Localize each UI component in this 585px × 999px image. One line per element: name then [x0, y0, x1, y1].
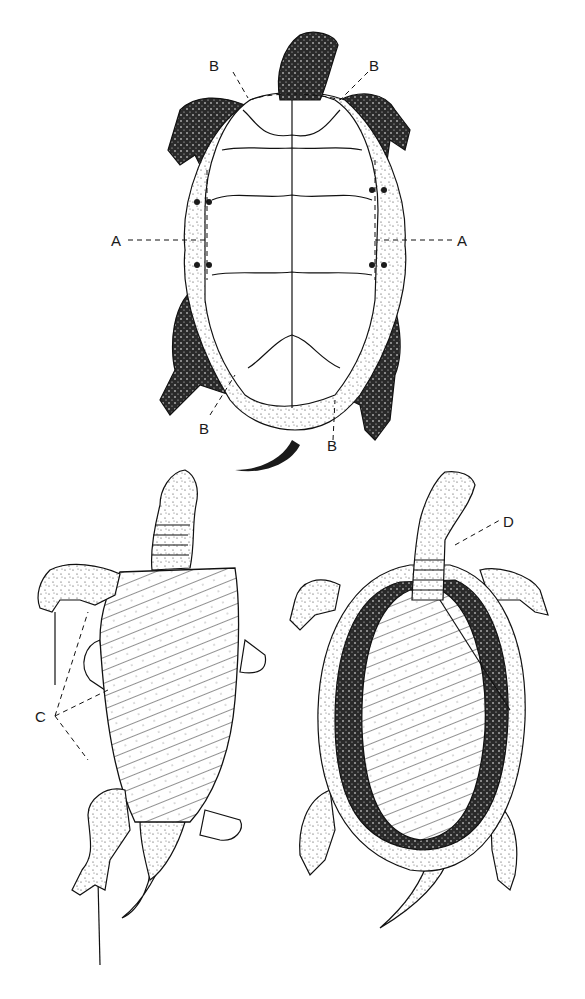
label-b-bottom-left: B [199, 421, 209, 436]
label-c: C [35, 709, 46, 724]
turtle-dissection-figure [0, 0, 585, 999]
label-b-bottom-right: B [327, 438, 337, 453]
label-d: D [503, 514, 514, 529]
label-a-right: A [457, 233, 467, 248]
label-a-left: A [111, 233, 121, 248]
bottom-right-turtle [290, 472, 548, 928]
top-head [278, 32, 338, 100]
top-turtle [128, 32, 452, 471]
left-hindlimb-pinned [72, 789, 130, 895]
label-b-top-right: B [369, 58, 379, 73]
exposed-cavity [362, 590, 486, 840]
lifted-plastron [100, 568, 239, 822]
label-b-top-left: B [209, 58, 219, 73]
bottom-left-turtle [38, 470, 265, 965]
